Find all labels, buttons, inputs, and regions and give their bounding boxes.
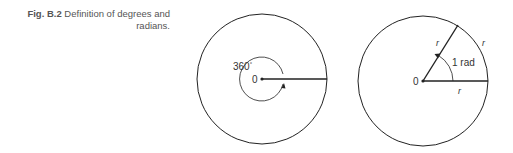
center-label-left: 0 bbox=[252, 74, 258, 85]
degrees-diagram: 0 360° bbox=[197, 14, 327, 144]
angle-label-degrees: 360° bbox=[233, 61, 253, 72]
radians-diagram: 0 1 rad r r r bbox=[358, 16, 488, 146]
angle-label-radian: 1 rad bbox=[452, 57, 475, 68]
one-radian-arc bbox=[439, 56, 454, 82]
center-dot-right bbox=[421, 79, 424, 82]
radius-label-lower: r bbox=[458, 86, 462, 96]
center-dot-left bbox=[260, 77, 263, 80]
radius-label-upper: r bbox=[436, 38, 440, 48]
arc-label: r bbox=[482, 38, 486, 48]
radius-line-angled bbox=[423, 25, 458, 81]
degrees-radians-diagram: 0 360° 0 1 rad r r r bbox=[0, 0, 513, 153]
center-label-right: 0 bbox=[413, 76, 419, 87]
full-turn-arrow-icon bbox=[282, 83, 286, 89]
